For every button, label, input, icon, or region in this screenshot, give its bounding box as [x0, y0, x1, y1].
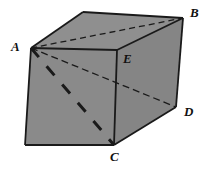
vertex-label-d: D	[184, 105, 193, 118]
geometry-figure: A B E D C	[0, 0, 207, 172]
prism-drawing	[0, 0, 207, 172]
vertex-label-e: E	[123, 52, 132, 65]
vertex-label-a: A	[11, 40, 20, 53]
vertex-label-b: B	[190, 6, 199, 19]
vertex-label-c: C	[110, 150, 119, 163]
front-face	[25, 48, 117, 145]
